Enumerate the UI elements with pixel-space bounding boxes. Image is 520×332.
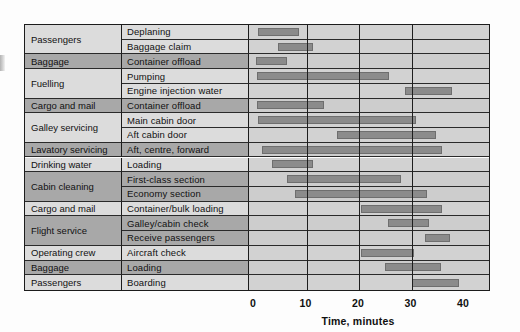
- row-plot-area: [249, 172, 489, 186]
- gantt-bar: [361, 249, 414, 257]
- row-task-label: Main cabin door: [122, 113, 249, 127]
- group-label: Baggage: [25, 54, 122, 69]
- row-task-label: Baggage claim: [122, 40, 249, 54]
- row-task-label: Receive passengers: [122, 231, 249, 245]
- row-task-label: Container offload: [122, 99, 249, 113]
- x-tick-label: 20: [352, 297, 364, 309]
- row-task-label: Container offload: [122, 54, 249, 68]
- row-plot-area: [249, 69, 489, 83]
- gantt-bar: [262, 146, 443, 154]
- gantt-bar: [257, 101, 324, 109]
- row-plot-area: [249, 25, 489, 39]
- x-axis-title: Time, minutes: [321, 315, 394, 327]
- row-plot-area: [249, 202, 489, 216]
- gantt-bar: [425, 234, 450, 242]
- gantt-bar: [256, 57, 288, 65]
- gantt-bar: [388, 219, 428, 227]
- group-label: Cabin cleaning: [25, 172, 122, 201]
- row-plot-area: [249, 158, 489, 172]
- group-label: Drinking water: [25, 158, 122, 173]
- row-plot-area: [249, 113, 489, 127]
- row-task-label: Aircraft check: [122, 246, 249, 260]
- group-label: Lavatory servicing: [25, 143, 122, 158]
- row-plot-area: [249, 187, 489, 201]
- row-plot-area: [249, 84, 489, 98]
- x-tick-label: 30: [404, 297, 416, 309]
- group-label: Baggage: [25, 261, 122, 276]
- chart-page: DeplaningBaggage claimContainer offloadP…: [0, 0, 520, 332]
- group-label: Fuelling: [25, 69, 122, 98]
- row-task-label: Loading: [122, 261, 249, 275]
- gantt-bar: [361, 205, 443, 213]
- row-plot-area: [249, 275, 489, 290]
- gantt-bar: [287, 175, 401, 183]
- row-plot-area: [249, 231, 489, 245]
- group-label: Galley servicing: [25, 113, 122, 142]
- gantt-bar: [412, 279, 459, 287]
- gantt-bar: [385, 263, 441, 271]
- x-tick-label: 40: [457, 297, 469, 309]
- row-plot-area: [249, 246, 489, 260]
- x-tick-label: 10: [299, 297, 311, 309]
- row-plot-area: [249, 143, 489, 157]
- gridline: [307, 25, 308, 290]
- row-task-label: Economy section: [122, 187, 249, 201]
- row-task-label: Pumping: [122, 69, 249, 83]
- gantt-bar: [258, 116, 417, 124]
- group-label: Cargo and mail: [25, 202, 122, 217]
- group-label: Operating crew: [25, 246, 122, 261]
- row-task-label: Galley/cabin check: [122, 216, 249, 230]
- gridline: [412, 25, 413, 290]
- row-task-label: Deplaning: [122, 25, 249, 39]
- row-plot-area: [249, 128, 489, 142]
- row-plot-area: [249, 40, 489, 54]
- gantt-bar: [295, 190, 427, 198]
- group-label: Passengers: [25, 25, 122, 54]
- gantt-bar: [337, 131, 436, 139]
- row-task-label: Engine injection water: [122, 84, 249, 98]
- x-tick-label: 0: [250, 297, 256, 309]
- scan-edge-artifact: [0, 55, 5, 71]
- row-plot-area: [249, 216, 489, 230]
- row-task-label: First-class section: [122, 172, 249, 186]
- row-task-label: Boarding: [122, 275, 249, 290]
- gantt-bar: [258, 28, 299, 36]
- row-plot-area: [249, 99, 489, 113]
- group-label: Cargo and mail: [25, 99, 122, 114]
- row-task-label: Loading: [122, 158, 249, 172]
- group-label: Flight service: [25, 216, 122, 245]
- row-task-label: Aft cabin door: [122, 128, 249, 142]
- row-task-label: Container/bulk loading: [122, 202, 249, 216]
- gantt-chart: DeplaningBaggage claimContainer offloadP…: [24, 24, 490, 291]
- gantt-bar: [257, 72, 389, 80]
- row-plot-area: [249, 54, 489, 68]
- group-label: Passengers: [25, 275, 122, 290]
- row-plot-area: [249, 261, 489, 275]
- gridline: [359, 25, 360, 290]
- row-task-label: Aft, centre, forward: [122, 143, 249, 157]
